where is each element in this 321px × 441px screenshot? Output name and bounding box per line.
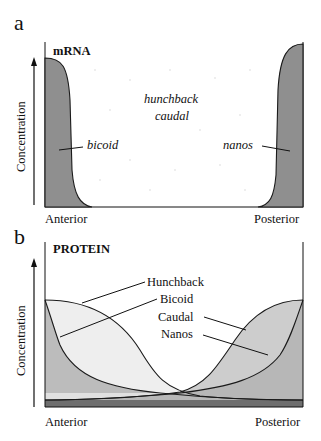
panel-a-y-arrow-icon <box>31 57 37 205</box>
baseline-band <box>45 400 303 407</box>
panel-a-frame <box>45 42 303 207</box>
panel-a-dots <box>94 69 251 191</box>
nanos-mrna-area <box>258 44 303 207</box>
bicoid-mrna-area <box>45 58 92 207</box>
panel-b-y-arrow-icon <box>31 258 37 407</box>
figure-graphics <box>0 0 321 441</box>
